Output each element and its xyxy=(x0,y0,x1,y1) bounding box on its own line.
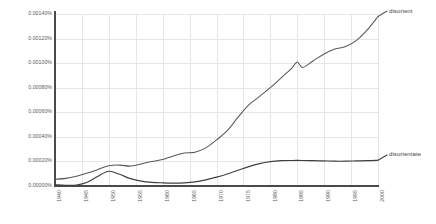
series-layer xyxy=(0,0,436,224)
ngram-chart: 0.00140%0.00120%0.00100%0.00080%0.00060%… xyxy=(0,0,436,224)
series-label-disorientate: disorientate xyxy=(389,151,421,157)
leader-line-disorientate xyxy=(378,155,387,160)
leader-line-disorient xyxy=(378,11,387,16)
series-label-disorient: disorient xyxy=(389,8,413,14)
series-line-disorientate xyxy=(55,160,378,185)
series-line-disorient xyxy=(55,16,378,179)
